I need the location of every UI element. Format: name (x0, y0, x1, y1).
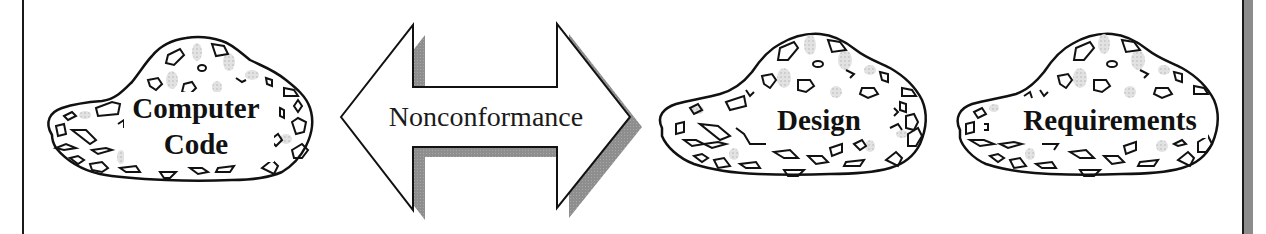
cloud-computer-code: Computer Code (48, 37, 312, 181)
cloud-label-computer: Computer (132, 92, 259, 124)
nonconformance-arrow: Nonconformance (341, 24, 642, 220)
cloud-label-requirements: Requirements (1023, 104, 1196, 136)
cloud-design: Design (660, 34, 926, 176)
cloud-label-code: Code (164, 128, 229, 160)
cloud-label-design: Design (777, 104, 861, 136)
diagram-canvas: Computer Code Nonconformance (0, 0, 1266, 234)
cloud-requirements: Requirements (958, 34, 1218, 176)
arrow-label-nonconformance: Nonconformance (389, 101, 583, 132)
